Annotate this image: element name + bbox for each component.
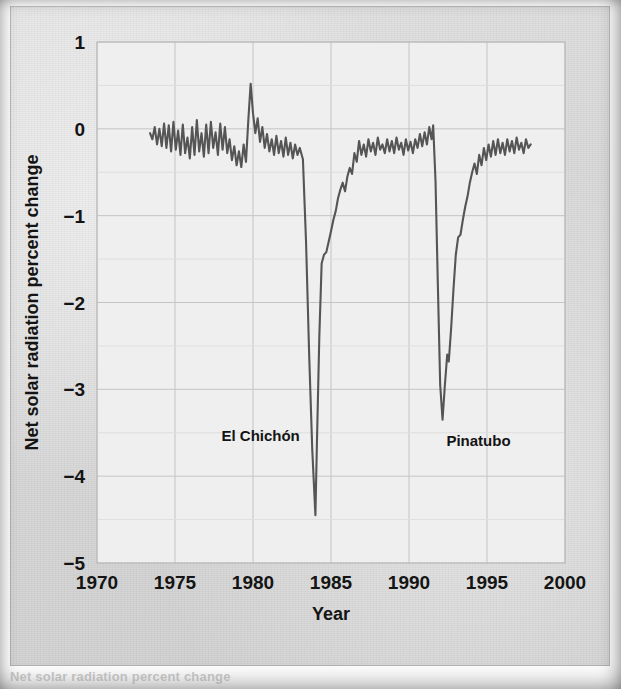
y-tick-label-6: −5 <box>63 553 85 574</box>
x-tick-label-1970: 1970 <box>76 572 118 593</box>
x-axis-title: Year <box>312 604 350 624</box>
x-tick-label-1985: 1985 <box>310 572 353 593</box>
x-tick-label-1980: 1980 <box>232 572 274 593</box>
caption-strip: Net solar radiation percent change <box>10 672 610 689</box>
y-tick-label-2: −1 <box>63 206 85 227</box>
x-tick-label-1990: 1990 <box>388 572 430 593</box>
y-tick-label-1: 0 <box>74 119 85 140</box>
y-tick-label-4: −3 <box>63 379 85 400</box>
figure-container: 197019751980198519901995200010−1−2−3−4−5… <box>0 0 621 689</box>
y-axis-title: Net solar radiation percent change <box>22 154 42 450</box>
x-tick-label-2000: 2000 <box>544 572 586 593</box>
annotation-label: El Chichón <box>221 427 299 444</box>
y-tick-label-3: −2 <box>63 293 85 314</box>
line-chart: 197019751980198519901995200010−1−2−3−4−5… <box>0 0 621 689</box>
x-tick-label-1995: 1995 <box>466 572 509 593</box>
y-tick-label-5: −4 <box>63 466 85 487</box>
partial-caption-text: Net solar radiation percent change <box>10 672 231 684</box>
annotation-label: Pinatubo <box>446 432 510 449</box>
x-tick-label-1975: 1975 <box>154 572 197 593</box>
y-tick-label-0: 1 <box>74 32 85 53</box>
